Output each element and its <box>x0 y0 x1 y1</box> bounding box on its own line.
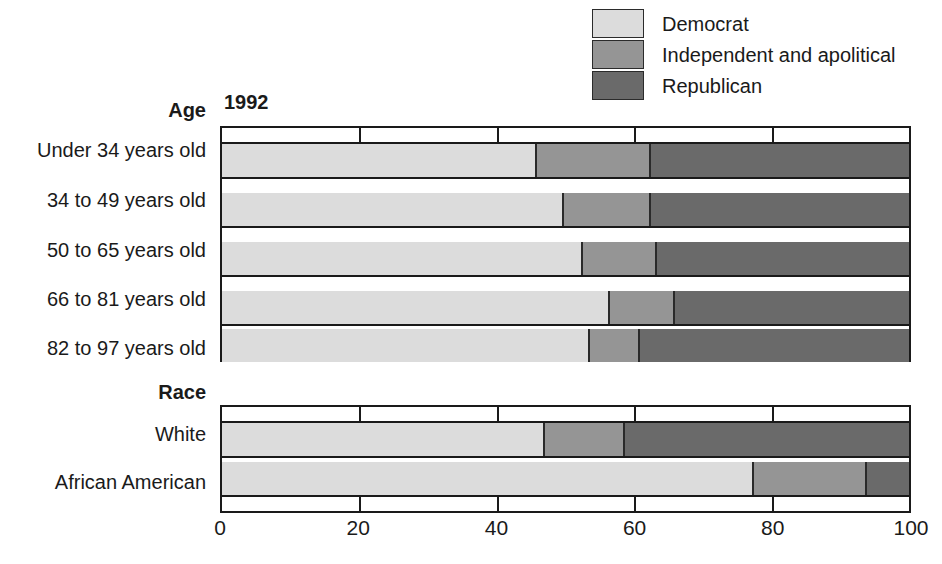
tick-race-20 <box>359 407 361 421</box>
bar-segment-democrat <box>222 242 581 275</box>
bar-separator <box>222 226 909 228</box>
x-axis-tick-label-40: 40 <box>485 516 508 540</box>
tick-race-40 <box>497 407 499 421</box>
plot-panel-age <box>220 126 911 362</box>
bar-segment-democrat <box>222 291 608 324</box>
tick-axis-80 <box>772 497 774 511</box>
bar-under-34[interactable] <box>222 144 909 177</box>
bar-50-65[interactable] <box>222 242 909 275</box>
tick-band-race-top <box>222 407 909 423</box>
category-label-34-49: 34 to 49 years old <box>0 190 206 210</box>
category-label-under-34: Under 34 years old <box>0 140 206 160</box>
bar-segment-republican <box>649 193 909 226</box>
bar-segment-republican <box>623 423 909 456</box>
tick-race-60 <box>634 407 636 421</box>
bar-separator <box>222 324 909 326</box>
bar-african-american[interactable] <box>222 462 909 495</box>
category-label-66-81: 66 to 81 years old <box>0 289 206 309</box>
bar-white[interactable] <box>222 423 909 456</box>
tick-age-80 <box>772 128 774 142</box>
bar-segment-democrat <box>222 193 562 226</box>
x-axis-tick-label-0: 0 <box>214 516 226 540</box>
tick-age-40 <box>497 128 499 142</box>
stacked-bar-chart: 1992 Age Under 34 years old 34 to 49 yea… <box>0 0 942 564</box>
bar-segment-independent <box>752 462 865 495</box>
tick-axis-60 <box>634 497 636 511</box>
chart-year-title: 1992 <box>224 92 269 112</box>
bar-66-81[interactable] <box>222 291 909 324</box>
bar-segment-republican <box>649 144 909 177</box>
bar-segment-democrat <box>222 144 535 177</box>
group-heading-age: Age <box>0 100 206 120</box>
tick-axis-20 <box>359 497 361 511</box>
bar-segment-republican <box>673 291 909 324</box>
tick-race-80 <box>772 407 774 421</box>
category-label-african-american: African American <box>0 472 206 492</box>
bar-segment-independent <box>608 291 673 324</box>
bar-segment-independent <box>581 242 655 275</box>
bar-segment-democrat <box>222 329 588 362</box>
bar-segment-republican <box>655 242 909 275</box>
category-label-50-65: 50 to 65 years old <box>0 240 206 260</box>
x-axis-tick-label-80: 80 <box>761 516 784 540</box>
x-axis-tick-label-100: 100 <box>893 516 928 540</box>
x-axis-tick-label-20: 20 <box>347 516 370 540</box>
bar-34-49[interactable] <box>222 193 909 226</box>
bar-separator <box>222 456 909 458</box>
tick-age-60 <box>634 128 636 142</box>
bar-separator <box>222 177 909 179</box>
bar-separator <box>222 275 909 277</box>
bar-segment-independent <box>535 144 649 177</box>
plot-panel-race <box>220 405 911 513</box>
tick-band-race-bottom <box>222 495 909 511</box>
tick-band-age-top <box>222 128 909 144</box>
x-axis: 0 20 40 60 80 100 <box>220 516 911 546</box>
bar-segment-democrat <box>222 462 752 495</box>
tick-age-20 <box>359 128 361 142</box>
bar-segment-independent <box>588 329 638 362</box>
bar-82-97[interactable] <box>222 329 909 362</box>
tick-axis-40 <box>497 497 499 511</box>
bar-segment-independent <box>562 193 649 226</box>
category-label-white: White <box>0 424 206 444</box>
bar-segment-republican <box>638 329 909 362</box>
bar-segment-republican <box>865 462 909 495</box>
category-label-82-97: 82 to 97 years old <box>0 338 206 358</box>
bar-segment-democrat <box>222 423 543 456</box>
group-heading-race: Race <box>0 382 206 402</box>
bar-segment-independent <box>543 423 623 456</box>
x-axis-tick-label-60: 60 <box>623 516 646 540</box>
